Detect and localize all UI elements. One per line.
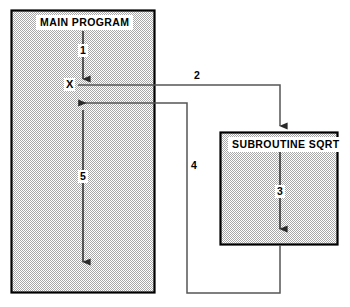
subroutine-sqrt-label: SUBROUTINE SQRT <box>228 137 344 152</box>
diagram-canvas <box>0 0 350 307</box>
main-program-label: MAIN PROGRAM <box>36 15 133 30</box>
step-label-5: 5 <box>78 170 88 183</box>
flow-diagram: MAIN PROGRAM SUBROUTINE SQRT X 1 2 3 4 5 <box>0 0 350 307</box>
node-label-x: X <box>64 78 75 91</box>
step-label-3: 3 <box>275 185 285 198</box>
step-label-4: 4 <box>189 159 199 172</box>
step-label-2: 2 <box>192 69 202 82</box>
step-label-1: 1 <box>78 44 88 57</box>
